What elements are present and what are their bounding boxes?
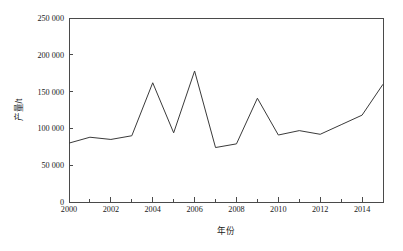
y-tick-label-250000: 250 000 — [37, 14, 64, 23]
x-tick-label-2004: 2004 — [145, 205, 161, 214]
plot-area-background — [69, 18, 383, 202]
y-axis-tick-labels: 0 50 000 100 000 150 000 200 000 250 000 — [37, 14, 64, 207]
x-axis-title: 年份 — [217, 225, 235, 236]
y-tick-label-50000: 50 000 — [41, 161, 64, 170]
y-tick-label-200000: 200 000 — [37, 51, 64, 60]
x-tick-label-2012: 2012 — [312, 205, 328, 214]
x-tick-label-2014: 2014 — [354, 205, 370, 214]
x-tick-label-2008: 2008 — [228, 205, 244, 214]
y-tick-label-100000: 100 000 — [37, 124, 64, 133]
x-tick-label-2002: 2002 — [103, 205, 119, 214]
line-chart-canvas: 0 50 000 100 000 150 000 200 000 250 000 — [0, 0, 403, 251]
x-tick-label-2000: 2000 — [61, 205, 77, 214]
y-axis-title: 产量/t — [13, 98, 24, 121]
x-axis-tick-labels: 2000 2002 2004 2006 2008 2010 2012 2014 — [61, 205, 370, 214]
y-tick-label-150000: 150 000 — [37, 88, 64, 97]
x-tick-label-2006: 2006 — [186, 205, 202, 214]
x-tick-label-2010: 2010 — [270, 205, 286, 214]
chart-figure: 0 50 000 100 000 150 000 200 000 250 000 — [0, 0, 403, 251]
